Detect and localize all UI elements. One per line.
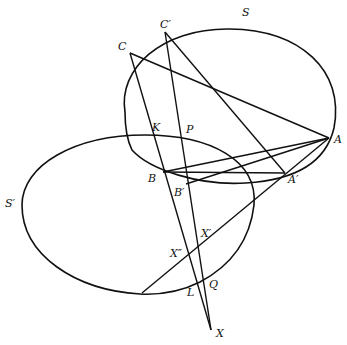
- label-k: K: [151, 121, 161, 134]
- label-x-double-prime: X″: [169, 247, 183, 260]
- conic-s-prime: [22, 135, 254, 294]
- label-c-prime: C′: [160, 18, 171, 31]
- line-c-x: [130, 53, 211, 330]
- geometry-diagram: C′ S C K P A B B′ A′ S′ X′ X″ L Q X: [0, 0, 347, 345]
- label-q: Q: [209, 278, 218, 291]
- label-s-prime: S′: [5, 197, 16, 210]
- label-a-prime: A′: [287, 173, 299, 186]
- label-x: X: [215, 327, 225, 340]
- line-b-a: [163, 138, 329, 172]
- label-l: L: [186, 286, 194, 299]
- label-b-prime: B′: [173, 186, 185, 199]
- label-b: B: [147, 172, 156, 185]
- conic-s: [124, 29, 335, 183]
- label-a: A: [333, 133, 342, 146]
- label-c: C: [118, 40, 127, 53]
- label-p: P: [185, 123, 194, 136]
- label-x-prime: X′: [200, 227, 212, 240]
- label-s: S: [242, 6, 250, 19]
